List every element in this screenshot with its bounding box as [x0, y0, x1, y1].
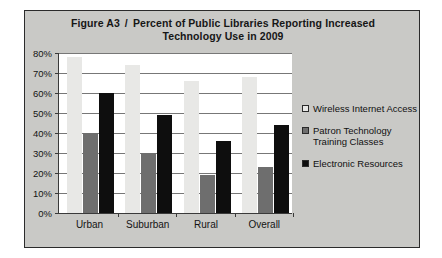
bar	[184, 81, 199, 213]
y-axis-tick	[55, 213, 59, 214]
bar	[157, 115, 172, 213]
y-axis-tick	[55, 113, 59, 114]
chart-title-line-1: Percent of Public Libraries Reporting In…	[133, 17, 375, 29]
legend-entry[interactable]: Wireless Internet Access	[302, 103, 420, 114]
y-axis-tick-label: 40%	[33, 128, 52, 139]
y-axis-tick-label: 30%	[33, 148, 52, 159]
x-axis-tick	[293, 213, 294, 217]
bar	[258, 167, 273, 213]
chart-legend: Wireless Internet AccessPatron Technolog…	[302, 103, 420, 180]
bar	[99, 93, 114, 213]
bar-group	[242, 53, 289, 213]
bar	[125, 65, 140, 213]
y-axis-tick-label: 0%	[38, 208, 52, 219]
legend-swatch-icon	[302, 105, 309, 112]
legend-label: Patron Technology Training Classes	[313, 125, 420, 147]
figure-frame: Figure A3/Percent of Public Libraries Re…	[24, 10, 420, 248]
bar	[83, 133, 98, 213]
x-axis-tick	[118, 213, 119, 217]
bar	[216, 141, 231, 213]
bar-group	[184, 53, 231, 213]
y-axis-tick	[55, 93, 59, 94]
x-axis-tick-label: Rural	[194, 219, 218, 230]
legend-label: Wireless Internet Access	[313, 103, 417, 114]
x-axis-tick	[235, 213, 236, 217]
x-axis-tick-label: Suburban	[126, 219, 169, 230]
bar-group	[125, 53, 172, 213]
x-axis-tick-label: Urban	[76, 219, 103, 230]
x-axis-tick-label: Overall	[248, 219, 280, 230]
bar-group	[67, 53, 114, 213]
legend-swatch-icon	[302, 160, 309, 167]
y-axis-tick	[55, 73, 59, 74]
x-axis-tick	[176, 213, 177, 217]
plot-area: 0%10%20%30%40%50%60%70%80% UrbanSuburban…	[58, 53, 292, 214]
title-separator: /	[120, 17, 133, 29]
legend-swatch-icon	[302, 127, 309, 134]
chart-title-line-2: Technology Use in 2009	[45, 30, 401, 43]
y-axis-tick-label: 10%	[33, 188, 52, 199]
legend-label: Electronic Resources	[313, 158, 403, 169]
y-axis-tick-label: 70%	[33, 68, 52, 79]
legend-entry[interactable]: Electronic Resources	[302, 158, 420, 169]
legend-entry[interactable]: Patron Technology Training Classes	[302, 125, 420, 147]
figure-label: Figure A3	[71, 17, 120, 29]
y-axis-tick-label: 60%	[33, 88, 52, 99]
bar	[200, 175, 215, 213]
bar	[67, 57, 82, 213]
y-axis-tick	[55, 153, 59, 154]
y-axis-tick-label: 50%	[33, 108, 52, 119]
bar	[274, 125, 289, 213]
y-axis-tick	[55, 53, 59, 54]
bar	[242, 77, 257, 213]
y-axis-tick-label: 20%	[33, 168, 52, 179]
chart-title: Figure A3/Percent of Public Libraries Re…	[45, 17, 401, 43]
y-axis-tick-label: 80%	[33, 48, 52, 59]
y-axis-tick	[55, 133, 59, 134]
y-axis-tick	[55, 193, 59, 194]
bar	[141, 153, 156, 213]
y-axis-tick	[55, 173, 59, 174]
